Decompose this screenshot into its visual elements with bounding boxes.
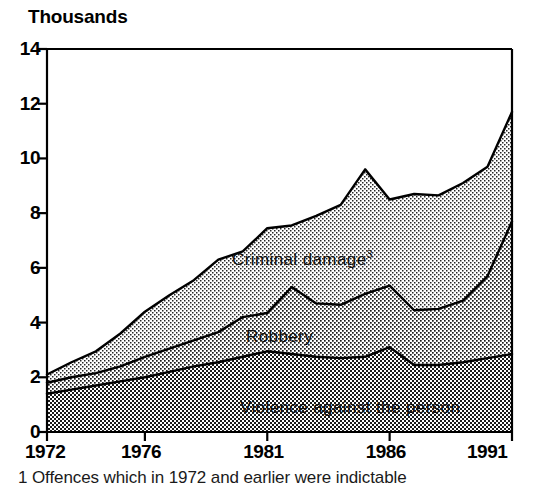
y-axis-tick-8: 8 — [6, 203, 40, 222]
series-label-criminal-damage-text: Criminal damage — [232, 250, 367, 269]
chart-footnote: 1 Offences which in 1972 and earlier wer… — [18, 468, 544, 484]
series-label-criminal-damage: Criminal damage3 — [232, 248, 373, 270]
y-axis-unit-label: Thousands — [28, 6, 128, 28]
x-axis-tick-1972: 1972 — [25, 441, 65, 463]
y-axis-tick-4: 4 — [6, 313, 40, 332]
crime-statistics-stacked-area-chart: Thousands 02468101214 197219761981198619… — [0, 0, 544, 484]
y-axis-tick-12: 12 — [6, 94, 40, 113]
y-axis-tick-14: 14 — [6, 39, 40, 58]
series-label-robbery: Robbery — [246, 327, 313, 347]
x-axis-tick-1976: 1976 — [121, 441, 161, 463]
x-axis-tick-1981: 1981 — [243, 441, 283, 463]
x-axis-tick-1991: 1991 — [467, 441, 507, 463]
stacked-area-bands — [47, 112, 512, 432]
criminal-damage-footnote-marker: 3 — [367, 248, 374, 260]
y-axis-tick-2: 2 — [6, 367, 40, 386]
y-axis-tick-0: 0 — [6, 422, 40, 441]
y-axis-tick-6: 6 — [6, 258, 40, 277]
series-label-violence: Violence against the person — [240, 398, 460, 418]
y-axis-tick-10: 10 — [6, 148, 40, 167]
x-axis-tick-1986: 1986 — [366, 441, 406, 463]
